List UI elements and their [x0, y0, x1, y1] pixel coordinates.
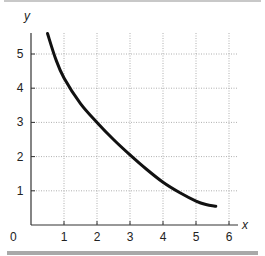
y-tick-label: 2 [17, 150, 24, 164]
x-tick-label: 6 [226, 230, 233, 244]
x-tick-label: 2 [94, 230, 101, 244]
grid [31, 33, 237, 225]
y-tick-label: 4 [17, 81, 24, 95]
x-tick-label: 3 [127, 230, 134, 244]
x-tick-label: 1 [61, 230, 68, 244]
axes [31, 33, 238, 225]
y-axis-title: y [23, 9, 31, 23]
x-tick-label: 4 [160, 230, 167, 244]
y-tick-label: 1 [17, 184, 24, 198]
x-tick-label: 5 [193, 230, 200, 244]
chart: 12345612345 y x 0 [0, 0, 265, 256]
y-tick-label: 5 [17, 47, 24, 61]
bottom-rule [7, 251, 258, 255]
origin-label: 0 [10, 230, 17, 244]
data-curve [48, 33, 216, 206]
y-tick-label: 3 [17, 115, 24, 129]
ticks: 12345612345 [17, 47, 233, 244]
x-axis-title: x [241, 218, 249, 232]
